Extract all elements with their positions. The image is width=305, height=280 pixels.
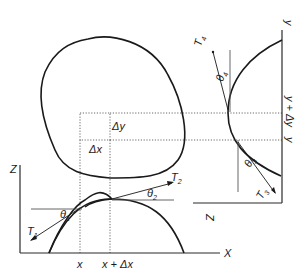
tension-label-t4: T4: [191, 34, 207, 48]
angle-label-theta2: θ2: [147, 187, 157, 201]
tick-label-x: x: [76, 258, 83, 270]
tension-vector-t3: [238, 142, 275, 193]
element-box: [80, 113, 110, 140]
yz-plot: y Z y + Δy y T4 θ4 T3 θ3: [191, 19, 296, 222]
xz-plot: Z X x x + Δx T1 θ1 T2 θ2: [9, 163, 232, 270]
tension-vector-t1: [31, 208, 80, 240]
membrane-profile-xz-main: [49, 199, 184, 253]
membrane-outline: [41, 37, 185, 178]
delta-x-label: Δx: [88, 143, 102, 155]
x-axis-label: X: [223, 247, 232, 259]
z-axis-label: Z: [9, 163, 18, 175]
tension-label-t1: T1: [27, 225, 38, 239]
tick-label-y-plus-dy: y + Δy: [284, 95, 296, 128]
tension-label-t2: T2: [171, 171, 182, 185]
arrowhead-t4: [212, 51, 214, 53]
tension-vector-t2: [112, 183, 172, 199]
tick-label-x-plus-dx: x + Δx: [101, 258, 133, 270]
delta-y-label: Δy: [111, 120, 126, 132]
y-axis-label: y: [283, 19, 295, 27]
tick-label-y: y: [284, 136, 296, 144]
membrane-tension-diagram: Δy Δx Z X x x + Δx T1 θ1 T2: [0, 0, 305, 280]
tension-label-t3: T3: [253, 186, 270, 202]
membrane-profile-xz: [49, 193, 112, 253]
angle-label-theta1: θ1: [60, 208, 70, 222]
z-axis-label-yz: Z: [204, 213, 216, 222]
membrane-profile-yz: [228, 40, 282, 176]
angle-label-theta4: θ4: [213, 70, 229, 83]
